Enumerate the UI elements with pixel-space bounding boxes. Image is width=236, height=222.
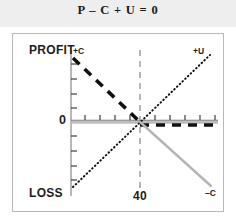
series-label-minus-c: –C bbox=[205, 188, 216, 198]
y-axis-top-label: PROFIT bbox=[29, 43, 75, 57]
figure-root: P – C + U = 0 bbox=[0, 0, 236, 222]
y-axis-bottom-label: LOSS bbox=[29, 186, 63, 200]
series-label-plus-u: +U bbox=[193, 46, 204, 56]
chart-frame: PROFIT LOSS 0 40 +C +U –C bbox=[12, 33, 224, 212]
title-band: P – C + U = 0 bbox=[0, 0, 236, 27]
y-axis-zero-label: 0 bbox=[59, 113, 66, 127]
series-minus-c-line bbox=[140, 122, 211, 186]
series-plus-c-line bbox=[73, 58, 140, 122]
page-title: P – C + U = 0 bbox=[0, 3, 236, 18]
x-axis-break-even-label: 40 bbox=[133, 189, 147, 203]
x-axis-ticks bbox=[85, 115, 215, 120]
series-label-plus-c: +C bbox=[73, 46, 84, 56]
